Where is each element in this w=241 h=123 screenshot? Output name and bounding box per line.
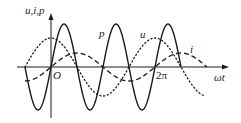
waveform-diagram: u,i,p ωt O 2π p u i — [0, 0, 241, 123]
y-axis-label: u,i,p — [25, 4, 45, 16]
origin-label: O — [53, 69, 61, 81]
x-axis-label: ωt — [214, 71, 226, 83]
u-curve-label: u — [140, 28, 146, 40]
two-pi-tick-label: 2π — [156, 69, 168, 81]
x-axis-arrow-icon — [222, 65, 229, 70]
p-curve-label: p — [98, 27, 105, 39]
i-curve-label: i — [190, 43, 193, 55]
y-axis-arrow-icon — [49, 13, 54, 20]
